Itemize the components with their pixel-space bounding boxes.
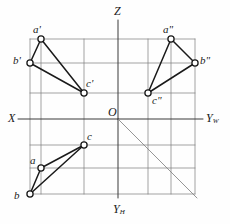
vertex-node-b3[interactable] [27, 191, 33, 197]
vertex-node-a3[interactable] [38, 165, 44, 171]
vertex-node-b1[interactable] [27, 60, 33, 66]
axis-label-o: O [108, 106, 117, 118]
vertex-label-b2: b" [200, 55, 210, 66]
vertex-node-c2[interactable] [145, 90, 151, 96]
edge-ab [30, 168, 41, 194]
edge-bc [30, 63, 84, 93]
vertex-label-c3: c [87, 131, 92, 142]
edge-ab [171, 39, 195, 63]
vertex-label-a2: a" [163, 24, 173, 35]
vertex-node-a1[interactable] [38, 36, 44, 42]
top-view-H-group [27, 142, 87, 197]
vertex-label-a3: a [30, 155, 36, 166]
axis-label-yw: YW [206, 112, 219, 125]
edge-ca [41, 39, 84, 93]
axis-label-yh: YH [113, 203, 125, 216]
axis-label-x: X [8, 112, 15, 124]
vertex-label-a1: a' [33, 24, 41, 35]
front-view-V-group [27, 36, 87, 96]
axis-label-z: Z [114, 5, 121, 17]
45-degree-bisector [118, 119, 197, 198]
side-view-W-group [145, 36, 198, 96]
edge-ab [30, 39, 41, 63]
vertex-label-c1: c' [86, 78, 93, 89]
vertex-label-b1: b' [13, 55, 21, 66]
vertex-label-c2: c" [152, 95, 162, 106]
vertex-node-a2[interactable] [168, 36, 174, 42]
projection-diagram-canvas: a'b'c'a"b"c"abcXZYWYHO [0, 0, 230, 224]
vertex-node-c1[interactable] [81, 90, 87, 96]
vertex-node-b2[interactable] [192, 60, 198, 66]
vertex-label-b3: b [14, 190, 20, 201]
vertex-node-c3[interactable] [81, 142, 87, 148]
